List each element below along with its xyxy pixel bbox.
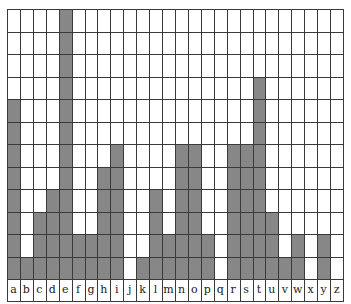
gridline-vertical bbox=[278, 9, 279, 301]
bar-u bbox=[265, 212, 278, 280]
x-tick-label: m bbox=[162, 279, 175, 301]
x-tick-label: k bbox=[136, 279, 149, 301]
x-tick-label: o bbox=[188, 279, 201, 301]
bar-b bbox=[20, 257, 33, 280]
gridline-vertical bbox=[265, 9, 266, 301]
bar-c bbox=[33, 212, 46, 280]
x-tick-label: y bbox=[317, 279, 330, 301]
gridline-vertical bbox=[175, 9, 176, 301]
x-tick-label: t bbox=[253, 279, 266, 301]
gridline-vertical bbox=[46, 9, 47, 301]
gridline-vertical bbox=[85, 9, 86, 301]
bar-k bbox=[136, 257, 149, 280]
label-row-bottom-line bbox=[7, 301, 344, 302]
x-tick-label: x bbox=[304, 279, 317, 301]
bar-h bbox=[97, 167, 110, 280]
gridline-vertical bbox=[291, 9, 292, 301]
x-tick-label: d bbox=[46, 279, 59, 301]
x-tick-label: v bbox=[278, 279, 291, 301]
gridline-vertical bbox=[33, 9, 34, 301]
gridline-vertical bbox=[72, 9, 73, 301]
x-tick-label: n bbox=[175, 279, 188, 301]
gridline-vertical bbox=[97, 9, 98, 301]
gridline-vertical bbox=[162, 9, 163, 301]
gridline-vertical bbox=[304, 9, 305, 301]
gridline-vertical bbox=[343, 9, 344, 301]
x-tick-label: p bbox=[201, 279, 214, 301]
x-tick-label: z bbox=[330, 279, 343, 301]
gridline-vertical bbox=[240, 9, 241, 301]
gridline-vertical bbox=[59, 9, 60, 301]
gridline-vertical bbox=[227, 9, 228, 301]
x-tick-label: b bbox=[20, 279, 33, 301]
x-tick-label: f bbox=[72, 279, 85, 301]
x-tick-label: r bbox=[227, 279, 240, 301]
x-tick-label: u bbox=[265, 279, 278, 301]
gridline-vertical bbox=[214, 9, 215, 301]
gridline-vertical bbox=[253, 9, 254, 301]
gridline-vertical bbox=[20, 9, 21, 301]
gridline-vertical bbox=[317, 9, 318, 301]
bar-v bbox=[278, 257, 291, 280]
gridline-vertical bbox=[136, 9, 137, 301]
x-tick-label: i bbox=[110, 279, 123, 301]
gridline-vertical bbox=[123, 9, 124, 301]
x-tick-label: w bbox=[291, 279, 304, 301]
gridline-vertical bbox=[110, 9, 111, 301]
x-tick-label: h bbox=[97, 279, 110, 301]
gridline-vertical bbox=[7, 9, 8, 301]
bar-chart: abcdefghijklmnopqrstuvwxyz bbox=[7, 9, 343, 301]
x-tick-label: a bbox=[7, 279, 20, 301]
x-tick-label: j bbox=[123, 279, 136, 301]
gridline-vertical bbox=[201, 9, 202, 301]
x-tick-label: q bbox=[214, 279, 227, 301]
x-tick-label: e bbox=[59, 279, 72, 301]
x-tick-label: c bbox=[33, 279, 46, 301]
x-tick-label: g bbox=[85, 279, 98, 301]
bar-t bbox=[253, 77, 266, 280]
gridline-vertical bbox=[149, 9, 150, 301]
x-tick-label: s bbox=[240, 279, 253, 301]
gridline-vertical bbox=[188, 9, 189, 301]
gridline-vertical bbox=[330, 9, 331, 301]
x-tick-label: l bbox=[149, 279, 162, 301]
